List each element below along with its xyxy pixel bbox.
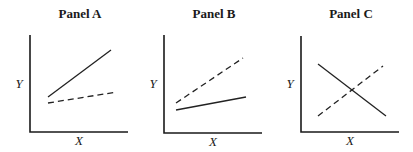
solid-line xyxy=(48,50,111,97)
x-axis-label: X xyxy=(74,133,84,148)
dashed-line xyxy=(176,58,243,103)
y-axis-label: Y xyxy=(286,76,295,91)
axes xyxy=(301,36,399,132)
panel-b: Panel BYX xyxy=(149,6,262,149)
x-axis-label: X xyxy=(345,133,355,148)
axes xyxy=(30,35,128,132)
x-axis-label: X xyxy=(208,134,218,149)
panel-c: Panel CYX xyxy=(286,6,399,148)
figure: Panel AYXPanel BYXPanel CYX xyxy=(0,0,413,152)
panel-title: Panel C xyxy=(329,6,373,21)
panel-title: Panel B xyxy=(193,6,236,21)
solid-line xyxy=(176,97,246,110)
panel-title: Panel A xyxy=(59,6,103,21)
y-axis-label: Y xyxy=(149,76,158,91)
axes xyxy=(164,35,262,133)
dashed-line xyxy=(318,66,383,116)
y-axis-label: Y xyxy=(15,76,24,91)
dashed-line xyxy=(48,92,117,103)
panel-a: Panel AYX xyxy=(15,6,128,148)
